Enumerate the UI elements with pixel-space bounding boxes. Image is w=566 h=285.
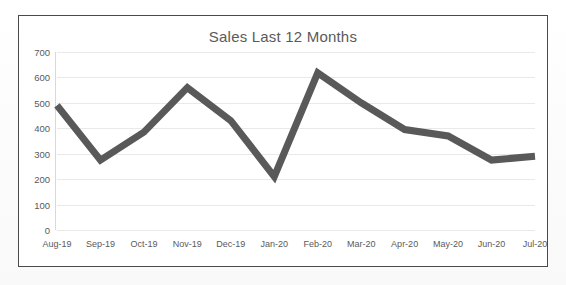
y-axis-line (55, 52, 56, 230)
x-axis-tick-label: Oct-19 (130, 239, 157, 249)
chart-container: Sales Last 12 Months 0100200300400500600… (18, 15, 548, 267)
x-axis-tick-label: Apr-20 (391, 239, 418, 249)
chart-title: Sales Last 12 Months (19, 28, 547, 45)
y-axis-tick-label: 200 (34, 174, 50, 185)
y-axis-tick-label: 0 (45, 225, 50, 236)
x-axis-tick-label: May-20 (433, 239, 463, 249)
x-axis-tick-label: Jun-20 (478, 239, 506, 249)
gridline (57, 230, 535, 231)
y-axis-tick-label: 600 (34, 72, 50, 83)
y-axis-tick-label: 400 (34, 123, 50, 134)
screenshot-page: Sales Last 12 Months 0100200300400500600… (0, 0, 566, 285)
y-axis-tick-label: 700 (34, 47, 50, 58)
y-axis-tick-label: 100 (34, 199, 50, 210)
x-axis-tick-label: Feb-20 (303, 239, 332, 249)
x-axis-tick-label: Jan-20 (261, 239, 289, 249)
x-axis-tick-label: Dec-19 (216, 239, 245, 249)
chart-plot-area: 0100200300400500600700 Aug-19Sep-19Oct-1… (57, 52, 535, 230)
x-axis-tick-label: Aug-19 (42, 239, 71, 249)
x-axis-tick-label: Jul-20 (523, 239, 548, 249)
y-axis-tick-label: 300 (34, 148, 50, 159)
x-axis-tick-label: Sep-19 (86, 239, 115, 249)
x-axis-tick-label: Nov-19 (173, 239, 202, 249)
x-axis-tick-label: Mar-20 (347, 239, 376, 249)
y-axis-tick-label: 500 (34, 97, 50, 108)
sales-line-series (57, 73, 535, 177)
line-series-svg (57, 52, 535, 230)
